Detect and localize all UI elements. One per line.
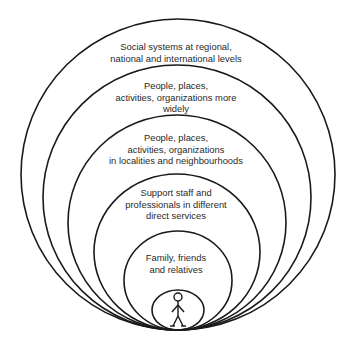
- label-support-staff: Support staff and professionals in diffe…: [0, 187, 352, 222]
- label-line: activities, organizations more: [0, 92, 352, 104]
- label-line: and relatives: [0, 264, 352, 276]
- label-line: People, places,: [0, 80, 352, 92]
- label-line: Social systems at regional,: [0, 41, 352, 53]
- label-line: Family, friends: [0, 252, 352, 264]
- label-local-community: People, places, activities, organization…: [0, 132, 352, 167]
- label-line: activities, organizations: [0, 144, 352, 156]
- label-social-systems: Social systems at regional, national and…: [0, 41, 352, 64]
- label-wider-community: People, places, activities, organization…: [0, 80, 352, 115]
- label-line: Support staff and: [0, 187, 352, 199]
- nested-circles-diagram: Social systems at regional, national and…: [0, 0, 352, 360]
- label-family: Family, friends and relatives: [0, 252, 352, 275]
- label-line: professionals in different: [0, 199, 352, 211]
- label-line: national and international levels: [0, 53, 352, 65]
- label-line: People, places,: [0, 132, 352, 144]
- label-line: in localities and neighbourhoods: [0, 155, 352, 167]
- person-icon: [170, 293, 186, 326]
- label-line: widely: [0, 103, 352, 115]
- label-line: direct services: [0, 210, 352, 222]
